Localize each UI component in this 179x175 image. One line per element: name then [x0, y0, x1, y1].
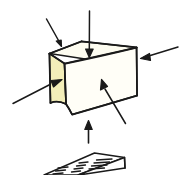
arrow-shaft [147, 47, 178, 57]
edge-left-vertical [49, 54, 50, 103]
arrow-top-vertical [86, 11, 94, 58]
arrow-right-horizontal [141, 47, 179, 61]
left-face [50, 54, 67, 105]
hatched-slab [44, 153, 125, 175]
sketch-canvas [0, 0, 179, 175]
arrow-top-left-diagonal [47, 19, 62, 47]
arrow-bottom-vertical [85, 121, 92, 144]
figure-root [0, 0, 179, 175]
arrow-head [56, 40, 61, 47]
arrow-head [141, 54, 151, 61]
arrow-head [85, 121, 92, 130]
arrow-shaft [13, 85, 50, 104]
rectangular-prism [49, 41, 137, 114]
edge-right-vertical [137, 48, 138, 96]
slab-edge-front [125, 158, 126, 169]
